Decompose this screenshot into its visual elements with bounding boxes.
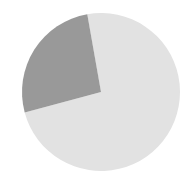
pie-chart-figure	[0, 0, 194, 185]
pie-chart-canvas	[0, 0, 194, 185]
pie-slices-group	[22, 13, 180, 171]
